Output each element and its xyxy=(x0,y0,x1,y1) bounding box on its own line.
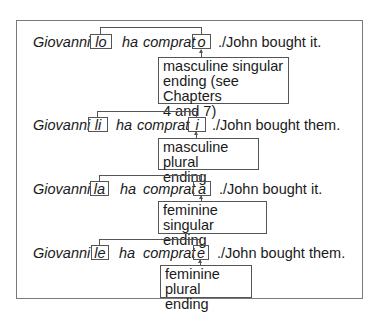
explanation-box: feminine plural ending xyxy=(160,265,252,298)
translation-text: ./John bought them. xyxy=(217,244,345,262)
explanation-box: masculine singular ending (see Chapters … xyxy=(158,57,289,104)
sentence-line: Giovanni lo ha comprat o ./John bought i… xyxy=(33,33,363,51)
explanation-line: masculine plural xyxy=(163,140,254,170)
pronoun-box: le xyxy=(91,245,109,260)
sentence-line: Giovanni li ha comprat i ./John bought t… xyxy=(33,116,363,134)
subject-word: Giovanni xyxy=(33,116,90,134)
pronoun-box: lo xyxy=(90,34,112,49)
ending-box: o xyxy=(192,34,211,49)
sentence-line: Giovanni la ha comprat a ./John bought i… xyxy=(33,180,363,198)
participle-stem: comprat xyxy=(137,116,189,134)
participle-stem: comprat xyxy=(143,180,195,198)
ending-box: e xyxy=(193,245,209,260)
ending-box: a xyxy=(193,181,211,196)
subject-word: Giovanni xyxy=(33,244,90,262)
subject-word: Giovanni xyxy=(33,180,90,198)
auxiliary-word: ha xyxy=(116,116,132,134)
arrow-up-icon xyxy=(201,50,202,57)
pronoun-box: li xyxy=(88,117,108,132)
explanation-line: ending (see Chapters xyxy=(163,74,284,104)
explanation-box: feminine singular ending xyxy=(158,201,267,234)
subject-word: Giovanni xyxy=(33,33,90,51)
participle-stem: comprat xyxy=(143,33,195,51)
auxiliary-word: ha xyxy=(122,33,138,51)
explanation-box: masculine plural ending xyxy=(158,138,259,170)
auxiliary-word: ha xyxy=(119,244,135,262)
translation-text: ./John bought it. xyxy=(219,180,322,198)
participle-stem: comprat xyxy=(143,244,195,262)
translation-text: ./John bought them. xyxy=(212,116,340,134)
pronoun-box: la xyxy=(90,181,109,196)
explanation-line: feminine singular xyxy=(163,203,262,233)
translation-text: ./John bought it. xyxy=(218,33,321,51)
explanation-line: feminine plural xyxy=(165,267,247,297)
auxiliary-word: ha xyxy=(120,180,136,198)
ending-box: i xyxy=(188,117,206,132)
explanation-line: ending xyxy=(165,297,247,312)
explanation-line: masculine singular xyxy=(163,59,284,74)
